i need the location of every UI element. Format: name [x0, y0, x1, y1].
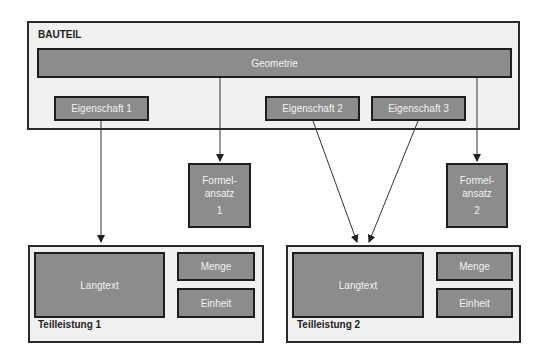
arrow-eigenschaft3-to-teilleistung2 — [369, 121, 418, 242]
connector-arrows — [0, 0, 547, 364]
arrow-eigenschaft2-to-teilleistung2 — [313, 121, 357, 242]
